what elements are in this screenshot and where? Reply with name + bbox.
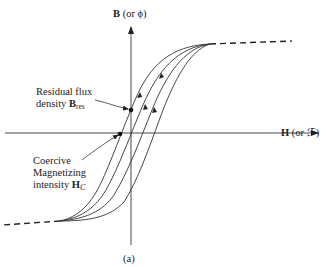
coercive-annotation: Coercive Magnetizing intensity HC <box>33 155 86 194</box>
x-axis-label: H (or ℱ) <box>281 127 319 139</box>
residual-line2: density Bres <box>36 98 92 113</box>
coercive-line2: Magnetizing <box>33 167 86 179</box>
figure-caption: (a) <box>123 253 135 265</box>
coercive-line3: intensity HC <box>33 179 86 194</box>
coercive-symbol: H <box>72 179 80 190</box>
coercive-point <box>118 132 123 137</box>
residual-subscript: res <box>76 102 85 111</box>
saturation-dashed-bottom <box>3 221 60 225</box>
saturation-dashed-top <box>210 41 292 44</box>
x-axis-symbol: H <box>281 127 289 138</box>
y-axis-label-rest: (or ϕ) <box>120 8 147 19</box>
residual-line1: Residual flux <box>36 86 92 98</box>
coercive-line1: Coercive <box>33 155 86 167</box>
residual-leader <box>95 100 128 109</box>
residual-flux-annotation: Residual flux density Bres <box>36 86 92 113</box>
hysteresis-curves <box>60 44 210 221</box>
residual-flux-point <box>129 108 134 113</box>
y-axis-label: B (or ϕ) <box>113 8 147 20</box>
coercive-subscript: C <box>80 183 85 192</box>
y-axis-symbol: B <box>113 8 120 19</box>
hysteresis-diagram <box>0 0 328 267</box>
x-axis-label-rest: (or ℱ) <box>289 127 319 138</box>
clipped-text-remnant <box>0 0 328 4</box>
residual-symbol: B <box>69 98 76 109</box>
